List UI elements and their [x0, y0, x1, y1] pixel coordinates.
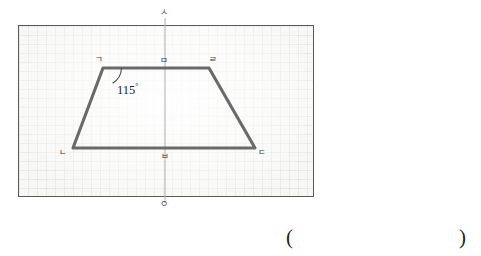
vertex-label-bottom-right: ㄷ	[258, 148, 266, 157]
vertex-label-top-mid: ㅁ	[160, 56, 168, 65]
answer-open-paren: (	[286, 224, 293, 250]
vertex-label-top-right: ㄹ	[209, 55, 217, 64]
vertex-label-bottom-left: ㄴ	[59, 148, 67, 157]
angle-measure-label: 115°	[117, 83, 139, 97]
answer-close-paren: )	[459, 224, 466, 250]
answer-blank[interactable]: ( )	[286, 224, 466, 250]
figure-panel	[18, 25, 314, 197]
paper-sheen	[19, 26, 313, 196]
axis-label-bottom: ㅇ	[160, 200, 168, 209]
axis-label-top: ㅅ	[160, 8, 168, 17]
degree-symbol: °	[135, 82, 138, 91]
vertex-label-bottom-mid: ㅂ	[161, 152, 169, 161]
vertex-label-top-left: ㄱ	[95, 55, 103, 64]
angle-measure-value: 115	[117, 83, 135, 97]
